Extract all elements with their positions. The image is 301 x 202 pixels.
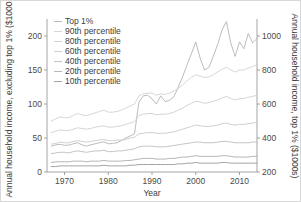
legend-label: 20th percentile [65,66,121,76]
legend-label: Top 1% [65,16,94,26]
chart-figure: 050100150200 2004006008001000 1970198019… [0,0,301,202]
x-axis-ticks: 19701980199020002010 [55,172,249,186]
y-axis-right-title: Annual household income, top 1% ($1000s) [290,14,300,179]
x-tick-label: 1970 [55,176,74,186]
y-tick-label-left: 150 [28,65,42,75]
series-line [51,141,257,153]
y-tick-label-right: 1000 [262,31,281,41]
y-tick-label-left: 100 [28,99,42,109]
y-tick-label-left: 0 [37,167,42,177]
y-tick-label-right: 400 [262,133,276,143]
x-tick-label: 1980 [99,176,118,186]
legend-label: 80th percentile [65,36,121,46]
chart-legend: Top 1%90th percentile80th percentile60th… [54,16,121,86]
y-tick-label-left: 50 [33,133,43,143]
y-axis-left-ticks: 050100150200 [28,31,47,177]
line-chart: 050100150200 2004006008001000 1970198019… [1,1,301,202]
x-tick-label: 2000 [186,176,205,186]
legend-label: 40th percentile [65,56,121,66]
legend-label: 10th percentile [65,76,121,86]
x-tick-label: 2010 [230,176,249,186]
series-line [51,122,257,144]
y-axis-left-title: Annual household income, excluding top 1… [4,1,14,198]
x-axis-title: Year [143,188,160,198]
y-tick-label-right: 800 [262,65,276,75]
y-tick-label-left: 200 [28,31,42,41]
y-tick-label-right: 600 [262,99,276,109]
legend-label: 60th percentile [65,46,121,56]
y-axis-right-ticks: 2004006008001000 [257,31,281,177]
y-tick-label-right: 200 [262,167,276,177]
series-line [51,156,257,163]
x-tick-label: 1990 [143,176,162,186]
series-line [51,162,257,166]
legend-label: 90th percentile [65,26,121,36]
